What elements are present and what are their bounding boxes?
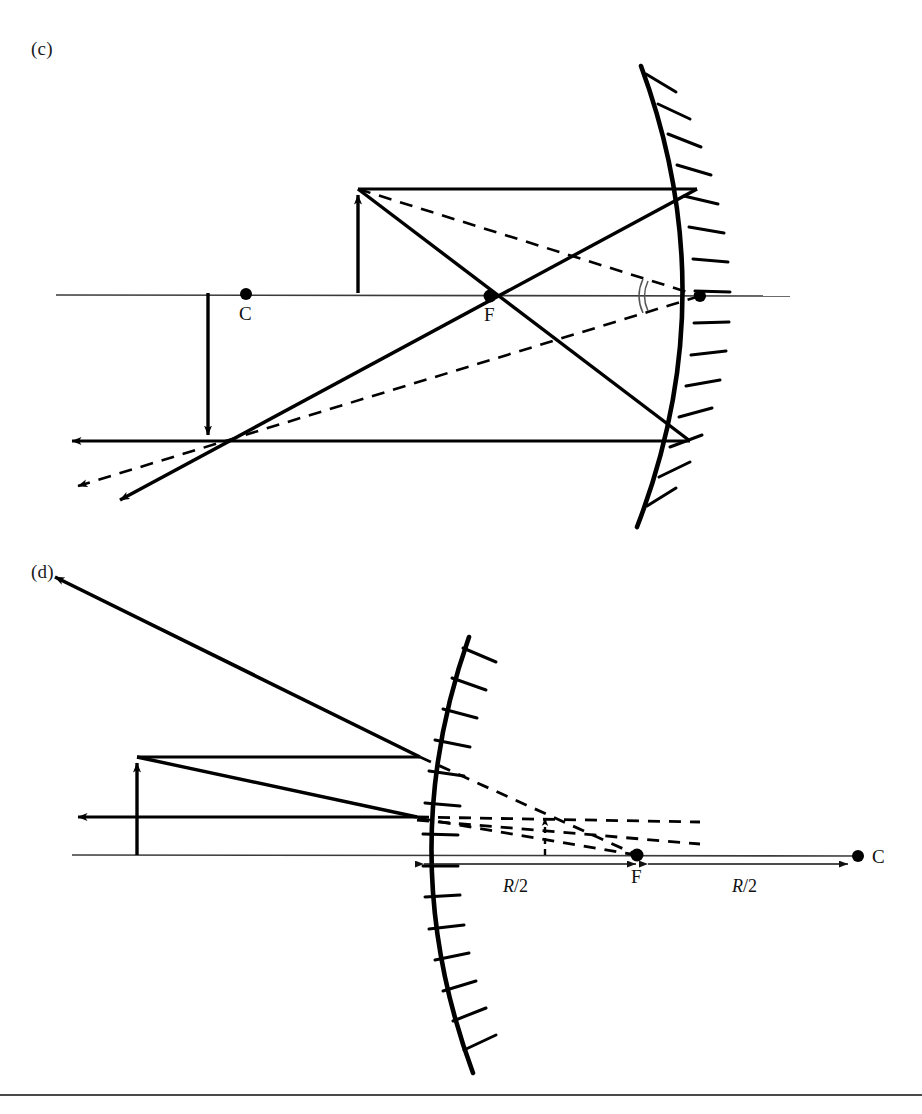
reflected-ray-diverging-d bbox=[55, 577, 420, 757]
dimension-rest-2: /2 bbox=[743, 876, 757, 896]
focus-dot-c bbox=[484, 290, 497, 303]
principal-axis-d bbox=[72, 855, 860, 856]
center-dot-c bbox=[240, 288, 252, 300]
center-dot-d bbox=[852, 850, 864, 862]
panel-d: (d) F C R/2 R/2 bbox=[0, 0, 922, 1114]
figure-root: (c) C F bbox=[0, 0, 922, 1114]
point-label-d-center: C bbox=[872, 846, 885, 868]
dimension-label-focus-center: R/2 bbox=[732, 876, 757, 897]
focus-dot-d bbox=[631, 849, 644, 862]
virtual-extension-lower-d bbox=[417, 820, 700, 844]
virtual-extension-focus-d bbox=[417, 818, 637, 855]
bottom-rule bbox=[0, 1094, 922, 1096]
panel-d-label: (d) bbox=[31, 561, 54, 583]
panel-d-svg bbox=[0, 0, 922, 1114]
point-label-d-focus: F bbox=[631, 866, 642, 888]
dimension-symbol-r-1: R bbox=[503, 876, 514, 896]
dimension-label-vertex-focus: R/2 bbox=[503, 876, 528, 897]
vertex-dot-c bbox=[694, 290, 706, 302]
incident-ray-toward-center-d bbox=[137, 757, 417, 817]
dimension-rest-1: /2 bbox=[514, 876, 528, 896]
dimension-symbol-r-2: R bbox=[732, 876, 743, 896]
